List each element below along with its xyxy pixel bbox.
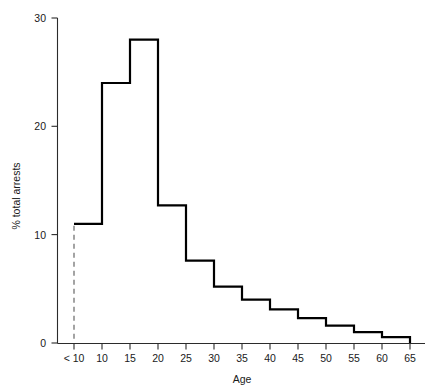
- y-axis-title: % total arrests: [10, 162, 22, 229]
- x-axis-ticks: [74, 344, 410, 350]
- y-axis-tick-labels: 30 20 10 0: [34, 12, 46, 349]
- x-tick-label-65: 65: [404, 352, 416, 364]
- x-tick-label-55: 55: [348, 352, 360, 364]
- y-tick-label-0: 0: [40, 337, 46, 349]
- y-tick-label-20: 20: [34, 120, 46, 132]
- x-tick-label-20: 20: [152, 352, 164, 364]
- x-axis-tick-labels: < 10 10 15 20 25 30 35 40 45 50 55 60 65: [64, 352, 416, 364]
- x-tick-label-40: 40: [264, 352, 276, 364]
- x-tick-label-45: 45: [292, 352, 304, 364]
- x-tick-label-15: 15: [124, 352, 136, 364]
- y-axis-ticks: [52, 18, 58, 343]
- y-tick-label-10: 10: [34, 229, 46, 241]
- y-tick-label-30: 30: [34, 12, 46, 24]
- x-axis-title: Age: [233, 373, 252, 385]
- x-tick-label-10: 10: [96, 352, 108, 364]
- x-tick-label-35: 35: [236, 352, 248, 364]
- x-tick-label-30: 30: [208, 352, 220, 364]
- arrests-by-age-step-histogram: 30 20 10 0 % total arrests < 10 10: [0, 0, 434, 391]
- chart-container: 30 20 10 0 % total arrests < 10 10: [0, 0, 434, 391]
- x-tick-label-60: 60: [376, 352, 388, 364]
- x-tick-label-25: 25: [180, 352, 192, 364]
- x-tick-label-50: 50: [320, 352, 332, 364]
- step-histogram-outline: [74, 40, 410, 343]
- x-tick-label-lt10: < 10: [64, 352, 85, 364]
